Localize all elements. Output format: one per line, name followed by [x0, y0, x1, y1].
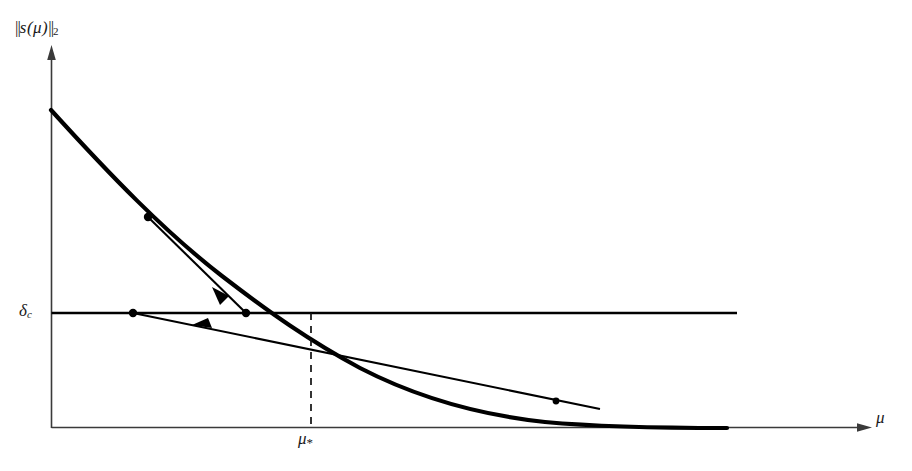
x-axis: [52, 423, 873, 432]
y-axis-label: ||s(μ)||2: [15, 19, 59, 37]
y-axis-label-expression: s(μ): [20, 18, 48, 37]
threshold-label-symbol: δ: [19, 301, 27, 320]
marker-level-point-right: [242, 309, 250, 317]
marker-curve-point-upper: [144, 213, 152, 221]
y-axis-arrowhead-icon: [47, 45, 56, 60]
mu-star-label-symbol: μ: [298, 429, 307, 448]
mu-star-label-subscript: *: [307, 435, 314, 450]
y-axis-label-subscript: 2: [53, 25, 59, 37]
diagram-canvas: [0, 0, 912, 471]
figure-root: ||s(μ)||2 δc μ* μ: [0, 0, 912, 471]
x-axis-label: μ: [876, 409, 885, 426]
y-axis: [47, 45, 56, 428]
marker-level-point-left: [129, 309, 137, 317]
x-axis-arrowhead-icon: [857, 423, 872, 432]
mu-star-label: μ*: [298, 430, 313, 449]
marker-curve-point-lower: [553, 398, 560, 405]
threshold-label: δc: [19, 302, 32, 320]
norm-curve: [51, 110, 727, 428]
first-iteration-arrowhead-icon: [212, 287, 229, 305]
second-iteration-segment: [133, 313, 600, 409]
threshold-label-subscript: c: [27, 308, 32, 320]
first-iteration-segment: [148, 217, 246, 313]
